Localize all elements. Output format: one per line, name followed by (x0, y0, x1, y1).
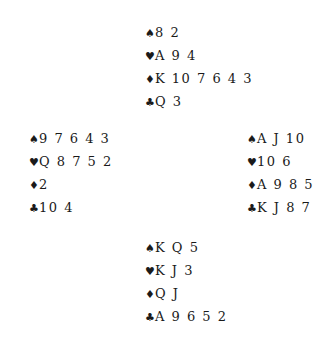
east-hearts-cards: 10 6 (257, 154, 292, 169)
south-diamonds: ♦Q J (145, 282, 228, 305)
north-spades-cards: 8 2 (155, 25, 180, 40)
spade-icon: ♠ (247, 128, 257, 151)
diamond-icon: ♦ (145, 68, 155, 91)
north-clubs-cards: Q 3 (155, 94, 183, 109)
west-hearts: ♥Q 8 7 5 2 (29, 150, 113, 173)
spade-icon: ♠ (29, 128, 39, 151)
south-hearts-cards: K J 3 (155, 263, 194, 278)
south-clubs: ♣A 9 6 5 2 (145, 305, 228, 328)
club-icon: ♣ (145, 306, 155, 329)
north-hand: ♠8 2 ♥A 9 4 ♦K 10 7 6 4 3 ♣Q 3 (145, 21, 253, 113)
west-diamonds: ♦2 (29, 173, 113, 196)
north-diamonds-cards: K 10 7 6 4 3 (155, 71, 253, 86)
north-diamonds: ♦K 10 7 6 4 3 (145, 67, 253, 90)
west-spades: ♠9 7 6 4 3 (29, 127, 113, 150)
south-hand: ♠K Q 5 ♥K J 3 ♦Q J ♣A 9 6 5 2 (145, 236, 228, 328)
south-spades-cards: K Q 5 (155, 240, 199, 255)
east-clubs-cards: K J 8 7 (257, 200, 311, 215)
club-icon: ♣ (29, 197, 39, 220)
diamond-icon: ♦ (145, 283, 155, 306)
south-spades: ♠K Q 5 (145, 236, 228, 259)
west-hearts-cards: Q 8 7 5 2 (39, 154, 113, 169)
east-clubs: ♣K J 8 7 (247, 196, 314, 219)
west-clubs: ♣10 4 (29, 196, 113, 219)
heart-icon: ♥ (145, 45, 155, 68)
east-diamonds: ♦A 9 8 5 (247, 173, 314, 196)
north-spades: ♠8 2 (145, 21, 253, 44)
east-hearts: ♥10 6 (247, 150, 314, 173)
south-diamonds-cards: Q J (155, 286, 180, 301)
south-clubs-cards: A 9 6 5 2 (155, 309, 228, 324)
north-hearts: ♥A 9 4 (145, 44, 253, 67)
west-spades-cards: 9 7 6 4 3 (39, 131, 110, 146)
west-clubs-cards: 10 4 (39, 200, 74, 215)
west-diamonds-cards: 2 (39, 177, 49, 192)
spade-icon: ♠ (145, 237, 155, 260)
east-diamonds-cards: A 9 8 5 (257, 177, 314, 192)
west-hand: ♠9 7 6 4 3 ♥Q 8 7 5 2 ♦2 ♣10 4 (29, 127, 113, 219)
diamond-icon: ♦ (247, 174, 257, 197)
east-spades: ♠A J 10 (247, 127, 314, 150)
spade-icon: ♠ (145, 22, 155, 45)
heart-icon: ♥ (29, 151, 39, 174)
east-hand: ♠A J 10 ♥10 6 ♦A 9 8 5 ♣K J 8 7 (247, 127, 314, 219)
heart-icon: ♥ (247, 151, 257, 174)
club-icon: ♣ (247, 197, 257, 220)
club-icon: ♣ (145, 91, 155, 114)
north-clubs: ♣Q 3 (145, 90, 253, 113)
heart-icon: ♥ (145, 260, 155, 283)
east-spades-cards: A J 10 (257, 131, 305, 146)
south-hearts: ♥K J 3 (145, 259, 228, 282)
north-hearts-cards: A 9 4 (155, 48, 197, 63)
diamond-icon: ♦ (29, 174, 39, 197)
